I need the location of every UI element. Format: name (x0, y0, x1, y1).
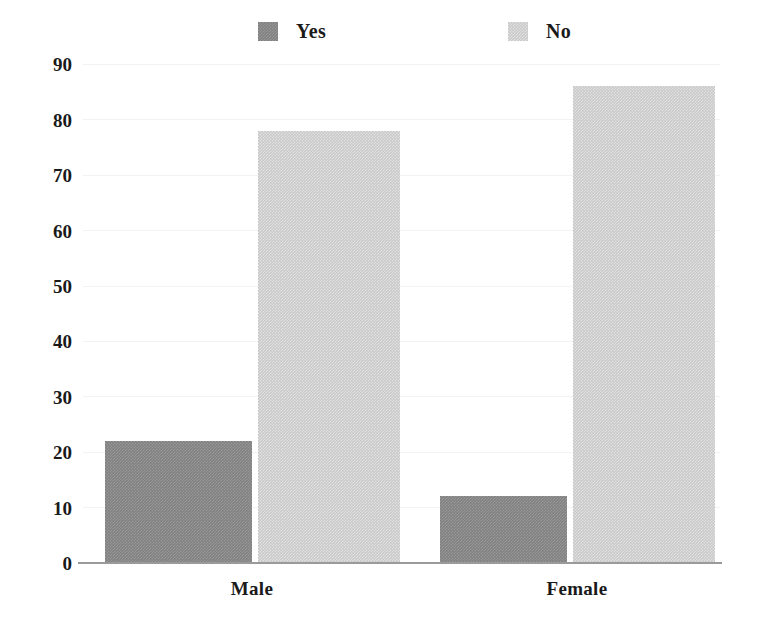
legend-label-yes: Yes (296, 22, 326, 41)
chart-legend: Yes No (0, 22, 770, 56)
legend-item-no[interactable]: No (508, 22, 571, 41)
y-axis-tick-0: 0 (0, 554, 72, 573)
bar-female-yes[interactable] (440, 496, 567, 563)
y-axis-tick-30: 30 (0, 387, 72, 406)
y-axis-tick-50: 50 (0, 277, 72, 296)
y-axis-tick-90: 90 (0, 55, 72, 74)
y-axis-tick-60: 60 (0, 221, 72, 240)
x-axis-label-female: Female (547, 578, 608, 600)
bar-chart: Yes No 0 10 20 30 40 50 60 70 80 90 Male (0, 0, 770, 624)
plot-area (83, 64, 720, 563)
legend-item-yes[interactable]: Yes (258, 22, 326, 41)
legend-swatch-no-icon (508, 22, 528, 41)
gridline-90 (83, 64, 720, 65)
y-axis-tick-20: 20 (0, 443, 72, 462)
y-axis-tick-70: 70 (0, 166, 72, 185)
y-axis-tick-80: 80 (0, 110, 72, 129)
x-axis-line (78, 562, 722, 564)
bar-male-yes[interactable] (105, 441, 252, 563)
legend-label-no: No (546, 22, 571, 41)
x-axis-label-male: Male (231, 578, 273, 600)
legend-swatch-yes-icon (258, 22, 278, 41)
bar-male-no[interactable] (258, 131, 400, 563)
bar-female-no[interactable] (573, 86, 715, 563)
y-axis-tick-40: 40 (0, 332, 72, 351)
y-axis-tick-10: 10 (0, 498, 72, 517)
